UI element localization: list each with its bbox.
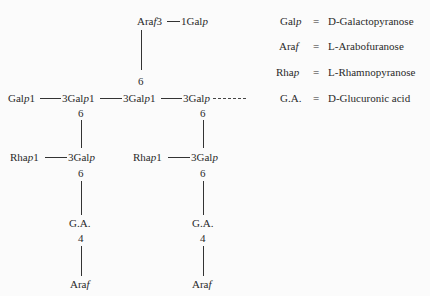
side-chain-galp: 3Galp bbox=[68, 151, 95, 163]
legend-abbr-araf: Araf bbox=[279, 40, 299, 52]
legend-eq: = bbox=[313, 40, 319, 52]
position-label: 6 bbox=[78, 167, 84, 179]
bond-line bbox=[168, 157, 190, 158]
side-chain-galp: 3Galp bbox=[191, 151, 218, 163]
side-chain-terminal-araf: Araf bbox=[70, 278, 90, 290]
bond-line bbox=[203, 246, 204, 276]
bond-line bbox=[203, 181, 204, 215]
legend-abbr-galp: Galp bbox=[280, 15, 301, 27]
legend-name-rhap: L-Rhamnopyranose bbox=[328, 66, 415, 78]
main-chain-unit-2: 3Galp1 bbox=[62, 92, 94, 104]
position-label: 6 bbox=[200, 107, 206, 119]
bond-line bbox=[100, 98, 122, 99]
top-branch-araf: Araf3 bbox=[137, 15, 162, 27]
main-chain-unit-3: 3Galp1 bbox=[123, 92, 155, 104]
bond-line bbox=[167, 21, 180, 22]
legend-abbr-rhap: Rhap bbox=[276, 66, 299, 78]
legend-eq: = bbox=[313, 66, 319, 78]
chain-continuation-dashes bbox=[213, 98, 246, 99]
legend-eq: = bbox=[313, 92, 319, 104]
position-label: 6 bbox=[200, 167, 206, 179]
bond-line bbox=[161, 98, 182, 99]
bond-line bbox=[40, 98, 61, 99]
bond-line bbox=[81, 246, 82, 276]
legend-name-ga: D-Glucuronic acid bbox=[328, 92, 410, 104]
side-chain-ga: G.A. bbox=[69, 217, 90, 229]
side-chain-rha: Rhap1 bbox=[133, 151, 162, 163]
bond-line bbox=[81, 181, 82, 215]
legend-name-araf: L-Arabofuranose bbox=[328, 40, 404, 52]
top-branch-galp: 1Galp bbox=[181, 15, 208, 27]
position-label: 6 bbox=[138, 75, 144, 87]
bond-line bbox=[45, 157, 67, 158]
bond-line bbox=[141, 30, 142, 70]
main-chain-unit-4: 3Galp bbox=[183, 92, 210, 104]
side-chain-rha: Rhap1 bbox=[10, 151, 39, 163]
side-chain-terminal-araf: Araf bbox=[192, 278, 212, 290]
legend-eq: = bbox=[313, 15, 319, 27]
main-chain-unit-1: Galp1 bbox=[8, 92, 35, 104]
side-chain-ga: G.A. bbox=[192, 217, 213, 229]
bond-line bbox=[81, 120, 82, 148]
position-label: 4 bbox=[200, 232, 206, 244]
legend-abbr-ga: G.A. bbox=[280, 92, 301, 104]
legend-name-galp: D-Galactopyranose bbox=[328, 15, 414, 27]
position-label: 6 bbox=[78, 107, 84, 119]
position-label: 4 bbox=[78, 232, 84, 244]
bond-line bbox=[203, 120, 204, 148]
